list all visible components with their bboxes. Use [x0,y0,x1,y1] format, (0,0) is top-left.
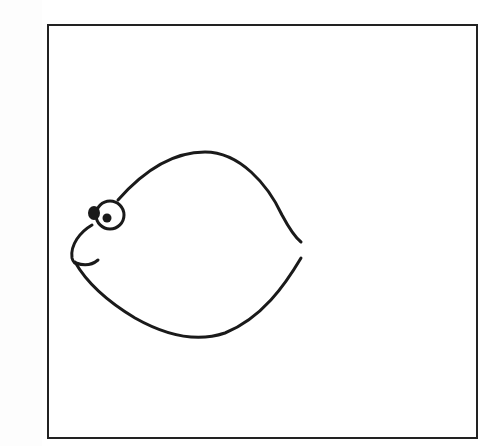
fish-mouth [76,260,98,265]
fish-pupil [103,214,112,223]
fish-face [72,225,92,264]
fish-eye-patch [88,206,100,220]
fish-drawing [0,0,488,446]
fish-lower-body [75,258,301,337]
fish-upper-body [118,152,301,242]
